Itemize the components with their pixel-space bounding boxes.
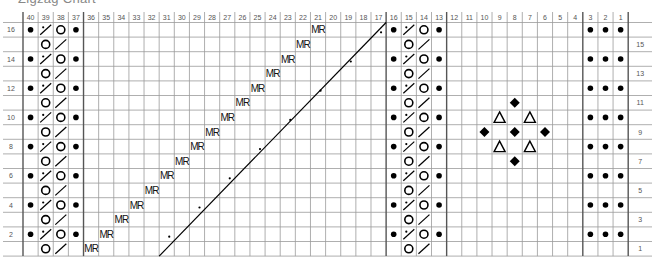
purl-bullet-icon <box>618 27 624 33</box>
purl-bullet-icon <box>603 231 609 237</box>
bobble-diamond-icon <box>479 127 489 137</box>
purl-bullet-icon <box>588 231 594 237</box>
purl-bullet-icon <box>436 202 442 208</box>
k2tog-slash-icon <box>418 244 429 254</box>
make-right-mr-label: MR <box>190 141 204 152</box>
column-label: 7 <box>528 14 532 21</box>
column-label: 40 <box>27 14 35 21</box>
purl-bullet-icon <box>618 231 624 237</box>
make-right-mr-label: MR <box>99 229 113 240</box>
row-label: 3 <box>638 216 642 223</box>
dot-icon <box>42 172 44 174</box>
yarn-over-circle-icon <box>42 245 50 253</box>
column-label: 29 <box>193 14 201 21</box>
purl-bullet-icon <box>603 144 609 150</box>
k2tog-slash-icon <box>403 83 414 93</box>
make-right-mr-label: MR <box>115 214 129 225</box>
purl-bullet-icon <box>618 144 624 150</box>
bobble-diamond-icon <box>540 127 550 137</box>
dot-icon <box>168 236 170 238</box>
dot-icon <box>42 114 44 116</box>
purl-bullet-icon <box>73 56 79 62</box>
yarn-over-circle-icon <box>42 186 50 194</box>
yarn-over-circle-icon <box>420 113 428 121</box>
purl-bullet-icon <box>28 27 34 33</box>
column-label: 2 <box>604 14 608 21</box>
bobble-diamond-icon <box>510 98 520 108</box>
k2tog-slash-icon <box>403 112 414 122</box>
k2tog-slash-icon <box>403 25 414 35</box>
column-label: 15 <box>405 14 413 21</box>
k2tog-slash-icon <box>403 54 414 64</box>
column-label: 23 <box>284 14 292 21</box>
yarn-over-circle-icon <box>405 70 413 78</box>
k2tog-slash-icon <box>418 215 429 225</box>
triangle-icon <box>524 141 535 152</box>
purl-bullet-icon <box>618 202 624 208</box>
dot-icon <box>42 231 44 233</box>
purl-bullet-icon <box>618 173 624 179</box>
purl-bullet-icon <box>588 115 594 121</box>
triangle-icon <box>494 112 505 123</box>
make-right-mr-label: MR <box>130 200 144 211</box>
k2tog-slash-icon <box>55 69 66 79</box>
bobble-diamond-icon <box>510 156 520 166</box>
yarn-over-circle-icon <box>57 55 65 63</box>
purl-bullet-icon <box>28 231 34 237</box>
yarn-over-circle-icon <box>405 40 413 48</box>
row-label: 4 <box>9 202 13 209</box>
column-label: 10 <box>481 14 489 21</box>
knitting-chart: 4039383736353433323130292827262524232221… <box>0 0 652 262</box>
yarn-over-circle-icon <box>405 186 413 194</box>
purl-bullet-icon <box>391 144 397 150</box>
purl-bullet-icon <box>28 115 34 121</box>
k2tog-slash-icon <box>403 229 414 239</box>
k2tog-slash-icon <box>40 112 51 122</box>
purl-bullet-icon <box>436 27 442 33</box>
column-label: 38 <box>57 14 65 21</box>
yarn-over-circle-icon <box>420 172 428 180</box>
dot-icon <box>42 55 44 57</box>
purl-bullet-icon <box>73 115 79 121</box>
purl-bullet-icon <box>73 144 79 150</box>
yarn-over-circle-icon <box>57 201 65 209</box>
column-label: 31 <box>163 14 171 21</box>
column-label: 21 <box>314 14 322 21</box>
purl-bullet-icon <box>28 202 34 208</box>
make-right-mr-label: MR <box>220 112 234 123</box>
row-label: 7 <box>638 158 642 165</box>
purl-bullet-icon <box>73 85 79 91</box>
column-label: 11 <box>466 14 473 21</box>
k2tog-slash-icon <box>418 69 429 79</box>
purl-bullet-icon <box>588 27 594 33</box>
column-label: 6 <box>543 14 547 21</box>
column-label: 34 <box>117 14 125 21</box>
dot-icon <box>405 85 407 87</box>
purl-bullet-icon <box>391 231 397 237</box>
row-label: 5 <box>638 187 642 194</box>
column-label: 3 <box>588 14 592 21</box>
k2tog-slash-icon <box>55 156 66 166</box>
column-label: 5 <box>558 14 562 21</box>
column-label: 8 <box>513 14 517 21</box>
row-label: 12 <box>7 85 15 92</box>
purl-bullet-icon <box>618 85 624 91</box>
k2tog-slash-icon <box>55 244 66 254</box>
dot-icon <box>42 143 44 145</box>
k2tog-slash-icon <box>418 156 429 166</box>
column-label: 26 <box>238 14 246 21</box>
make-right-mr-label: MR <box>160 170 174 181</box>
purl-bullet-icon <box>73 231 79 237</box>
column-label: 27 <box>223 14 231 21</box>
column-label: 19 <box>344 14 352 21</box>
dot-icon <box>42 26 44 28</box>
dot-icon <box>405 26 407 28</box>
purl-bullet-icon <box>588 56 594 62</box>
column-label: 12 <box>450 14 458 21</box>
row-label: 6 <box>9 172 13 179</box>
yarn-over-circle-icon <box>42 216 50 224</box>
purl-bullet-icon <box>436 231 442 237</box>
yarn-over-circle-icon <box>405 128 413 136</box>
yarn-over-circle-icon <box>420 230 428 238</box>
column-label: 30 <box>178 14 186 21</box>
